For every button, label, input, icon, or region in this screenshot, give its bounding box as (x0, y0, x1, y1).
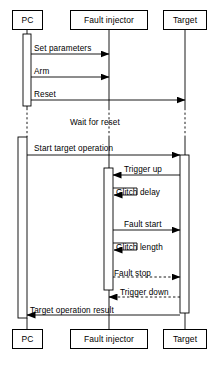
message-label-arm: Arm (34, 68, 49, 76)
activation-bar-pc-activation-main (18, 137, 27, 318)
message-label-fault-stop: Fault stop (114, 270, 151, 278)
participant-footer-pc-label: PC (21, 335, 33, 344)
participant-header-fault-injector-label: Fault injector (84, 16, 134, 25)
message-label-glitch-length: Glitch length (116, 244, 163, 252)
message-label-target-operation-result: Target operation result (30, 307, 114, 315)
sequence-diagram: PC Fault injector Target PC Fault inject… (0, 0, 218, 367)
message-label-set-parameters: Set parameters (34, 45, 91, 53)
participant-header-pc-label: PC (21, 16, 33, 25)
message-label-fault-start: Fault start (124, 221, 162, 229)
message-label-start-target-operation: Start target operation (34, 145, 113, 153)
message-label-trigger-up: Trigger up (124, 166, 162, 174)
participant-footer-fault-injector-label: Fault injector (84, 335, 134, 344)
participant-header-target-label: Target (173, 16, 197, 25)
participant-header-target[interactable]: Target (163, 10, 207, 30)
participant-header-pc[interactable]: PC (12, 10, 43, 30)
note-wait-for-reset: Wait for reset (70, 119, 120, 127)
participant-footer-target-label: Target (173, 335, 197, 344)
activation-bar-fault-injector-activation (104, 168, 113, 290)
activation-bar-pc-activation-top (23, 34, 31, 106)
participant-footer-pc[interactable]: PC (12, 329, 43, 349)
activation-bar-target-activation (180, 155, 189, 313)
message-label-reset: Reset (34, 91, 56, 99)
message-label-glitch-delay: Glitch delay (116, 189, 160, 197)
message-label-trigger-down: Trigger down (120, 289, 169, 297)
participant-header-fault-injector[interactable]: Fault injector (70, 10, 148, 30)
participant-footer-target[interactable]: Target (163, 329, 207, 349)
participant-footer-fault-injector[interactable]: Fault injector (70, 329, 148, 349)
